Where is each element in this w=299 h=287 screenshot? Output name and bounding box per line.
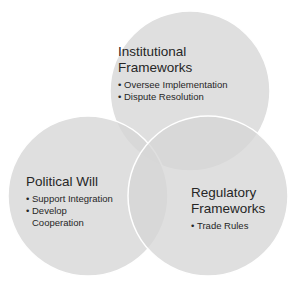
regulatory-frameworks-label: Regulatory Frameworks Trade Rules: [191, 185, 265, 232]
list-item: Oversee Implementation: [118, 79, 228, 91]
list-item: Develop Cooperation: [26, 205, 90, 229]
institutional-frameworks-title: Institutional Frameworks: [118, 44, 228, 76]
title-line: Frameworks: [191, 201, 265, 217]
title-line: Frameworks: [118, 60, 228, 76]
institutional-frameworks-label: Institutional Frameworks Oversee Impleme…: [118, 44, 228, 103]
list-item: Support Integration: [26, 193, 121, 205]
regulatory-frameworks-items: Trade Rules: [191, 220, 265, 232]
title-line: Political Will: [26, 174, 126, 190]
title-line: Institutional: [118, 44, 228, 60]
political-will-title: Political Will: [26, 174, 126, 190]
regulatory-frameworks-title: Regulatory Frameworks: [191, 185, 265, 217]
list-item: Trade Rules: [191, 220, 265, 232]
institutional-frameworks-items: Oversee Implementation Dispute Resolutio…: [118, 79, 228, 103]
list-item: Dispute Resolution: [118, 91, 228, 103]
political-will-label: Political Will Support Integration Devel…: [26, 174, 126, 229]
title-line: Regulatory: [191, 185, 265, 201]
political-will-items: Support Integration Develop Cooperation: [26, 193, 121, 229]
